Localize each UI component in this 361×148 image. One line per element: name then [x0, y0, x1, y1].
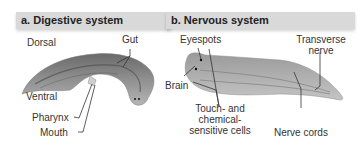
label-mouth: Mouth — [40, 127, 68, 138]
label-touch-chemical-cells: Touch- and chemical- sensitive cells — [186, 103, 254, 136]
label-nerve-cords: Nerve cords — [274, 127, 328, 138]
label-ventral: Ventral — [26, 91, 57, 102]
label-eyespots: Eyespots — [180, 34, 221, 45]
nervous-flatworm — [185, 53, 343, 100]
label-transverse-nerve: Transverse nerve — [295, 34, 347, 56]
label-pharynx: Pharynx — [32, 112, 69, 123]
panel-a-title: a. Digestive system — [16, 12, 171, 29]
label-dorsal: Dorsal — [27, 37, 56, 48]
label-brain: Brain — [165, 80, 188, 91]
panel-b-title: b. Nervous system — [166, 12, 355, 29]
label-gut: Gut — [122, 34, 138, 45]
